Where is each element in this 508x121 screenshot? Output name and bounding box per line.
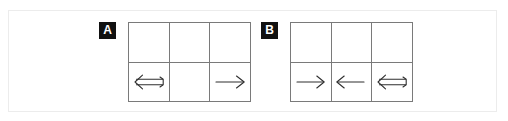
panel-label-a: A [99, 22, 116, 39]
grid-a-cell-r1c1 [129, 23, 170, 63]
figure-root: A [0, 0, 508, 121]
left-arrow-icon [335, 74, 367, 90]
grid-b-cell-r1c3 [372, 23, 413, 63]
double-left-arrow-icon [132, 74, 166, 90]
grid-a-cell-r2c1 [129, 63, 170, 103]
grid-a-cell-r2c2 [170, 63, 211, 103]
grid-b-cell-r2c3 [372, 63, 413, 103]
grid-a-cell-r1c3 [210, 23, 251, 63]
grid-b-cell-r2c1 [291, 63, 332, 103]
panel-label-b: B [261, 22, 278, 39]
right-arrow-icon [213, 74, 247, 90]
grid-a [128, 22, 251, 102]
right-arrow-icon [295, 74, 327, 90]
grid-b-cell-r1c2 [332, 23, 373, 63]
double-left-arrow-icon [375, 74, 409, 90]
figure-outer-frame: A [8, 10, 497, 112]
grid-a-cell-r1c2 [170, 23, 211, 63]
grid-b-cell-r1c1 [291, 23, 332, 63]
grid-a-cell-r2c3 [210, 63, 251, 103]
grid-b-cell-r2c2 [332, 63, 373, 103]
panels-container: A [9, 11, 496, 111]
grid-b [290, 22, 413, 102]
